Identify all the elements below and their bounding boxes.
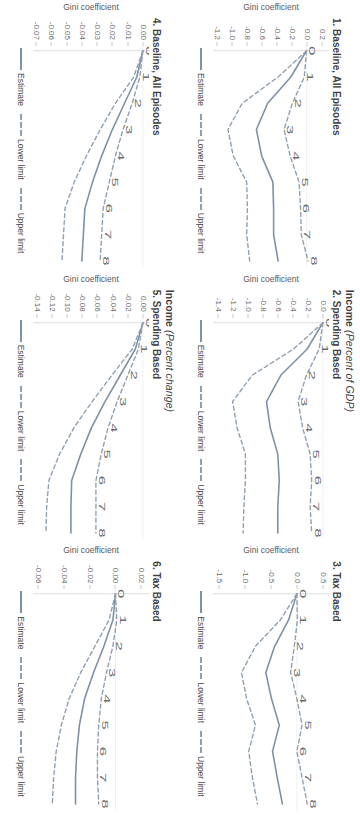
x-tick-label: 7 (98, 773, 108, 782)
legend-swatch-dash-icon (200, 459, 202, 481)
x-tick-label: 2 (129, 370, 139, 379)
x-tick-label: 3 (299, 397, 309, 406)
plot-svg-1: 012345678 (213, 44, 329, 268)
x-tick-label: 6 (298, 747, 308, 756)
x-tick-label: 7 (311, 502, 321, 511)
legend-3: Estimate Lower limit Upper limit (196, 591, 206, 813)
y-tick-label: -0.6 (273, 298, 282, 312)
legend-swatch-dash-icon (200, 731, 202, 753)
x-tick-label: 5 (102, 449, 112, 458)
legend-swatch-solid-icon (20, 48, 22, 70)
legend-item-estimate: Estimate (16, 591, 26, 649)
y-tick-label: -0.6 (257, 26, 266, 40)
plot-svg-3: 012345678 (213, 587, 329, 811)
x-tick-label: 2 (133, 99, 143, 108)
x-tick-label: 7 (302, 230, 312, 239)
x-tick-label: 0 (116, 589, 126, 598)
legend-swatch-dash-icon (200, 114, 202, 136)
x-tick-label: 8 (100, 800, 110, 809)
legend-swatch-dash-icon (20, 386, 22, 408)
panel-title-2: 2. Spending Based (330, 290, 343, 542)
y-tick-label: -0.8 (258, 298, 267, 312)
x-tick-label: 1 (118, 616, 128, 625)
legend-item-lower: Lower limit (196, 386, 206, 452)
plot-area-4: Gini coefficient 0.00-0.01-0.02-0.03-0.0… (33, 4, 149, 270)
y-tick-label: -0.5 (267, 570, 276, 584)
x-tick-label: 5 (311, 449, 321, 458)
y-tick-label: 0.5 (318, 572, 327, 583)
chart-canvas: 012345678 (33, 587, 149, 811)
y-tick-label: -1.2 (228, 298, 237, 312)
plot-area-2: Gini coefficient 0.0-0.2-0.4-0.6-0.8-1.0… (213, 276, 329, 542)
x-tick-label: 8 (101, 256, 111, 265)
x-tick-label: 1 (298, 616, 308, 625)
plot-svg-2: 012345678 (213, 316, 329, 540)
y-tick-label: -0.14 (32, 293, 41, 311)
series-line-upper-limit (46, 322, 143, 532)
x-tick-label: 2 (114, 642, 124, 651)
x-tick-label: 1 (141, 72, 149, 81)
x-tick-label: 6 (97, 475, 107, 484)
legend-swatch-solid-icon (200, 48, 202, 70)
chart-canvas: 012345678 (213, 587, 329, 811)
legend-item-lower: Lower limit (16, 386, 26, 452)
legend-item-upper: Upper limit (16, 459, 26, 525)
y-tick-label: -0.4 (288, 298, 297, 312)
y-tick-labels-6: 0.020.00-0.02-0.04-0.06 (33, 557, 149, 585)
panel-cell-2: Income (Percent of GDP) 2. Spending Base… (180, 272, 360, 544)
x-tick-label: 3 (285, 125, 295, 134)
y-tick-label: -1.2 (212, 26, 221, 40)
y-tick-label: 0.0 (302, 29, 311, 40)
legend-item-upper: Upper limit (16, 188, 26, 254)
x-tick-label: 1 (320, 344, 329, 353)
legend-item-estimate: Estimate (196, 48, 206, 106)
y-tick-label: -0.8 (242, 26, 251, 40)
y-tick-labels-5: 0.00-0.02-0.04-0.06-0.08-0.10-0.12-0.14 (33, 286, 149, 314)
legend-item-upper: Upper limit (196, 731, 206, 797)
panel-cell-1: 1. Baseline, All Episodes Gini coefficie… (180, 0, 360, 272)
panel-title-3: 3. Tax Based (330, 561, 343, 813)
x-tick-label: 2 (293, 99, 303, 108)
y-tick-label: 0.0 (318, 301, 327, 312)
y-tick-label: -1.4 (213, 298, 222, 312)
x-tick-label: 1 (305, 72, 315, 81)
panel-cell-4: 4. Baseline, All Episodes Gini coefficie… (0, 0, 180, 272)
y-tick-label: -0.01 (123, 22, 132, 40)
legend-swatch-dash-icon (20, 114, 22, 136)
plot-svg-4: 012345678 (33, 44, 149, 268)
legend-item-estimate: Estimate (196, 320, 206, 378)
x-tick-label: 5 (100, 721, 110, 730)
legend-swatch-dash-icon (200, 657, 202, 679)
y-tick-label: 0.2 (317, 29, 326, 40)
x-tick-label: 7 (103, 230, 113, 239)
x-tick-label: 3 (107, 668, 117, 677)
legend-4: Estimate Lower limit Upper limit (16, 48, 26, 270)
legend-item-estimate: Estimate (16, 48, 26, 106)
legend-6: Estimate Lower limit Upper limit (16, 591, 26, 813)
y-tick-label: -0.03 (93, 22, 102, 40)
figure-stage: 1. Baseline, All Episodes Gini coefficie… (0, 0, 360, 815)
x-tick-label: 1 (139, 344, 149, 353)
y-tick-label: 0.00 (138, 24, 147, 40)
panel-cell-3: 3. Tax Based Gini coefficient 0.50.0-0.5… (180, 543, 360, 815)
y-axis-label-5: Gini coefficient (33, 272, 149, 286)
y-tick-label: -1.5 (215, 570, 224, 584)
y-tick-label: -1.0 (227, 26, 236, 40)
y-axis-label-4: Gini coefficient (33, 0, 149, 14)
x-tick-label: 5 (300, 177, 310, 186)
y-tick-labels-1: 0.20.0-0.2-0.4-0.6-0.8-1.0-1.2 (213, 14, 329, 42)
plot-area-6: Gini coefficient 0.020.00-0.02-0.04-0.06… (33, 547, 149, 813)
legend-item-upper: Upper limit (196, 188, 206, 254)
panel-cell-5: Income (Percent change) 5. Spending Base… (0, 272, 180, 544)
y-tick-label: -0.06 (34, 565, 43, 583)
legend-item-lower: Lower limit (16, 114, 26, 180)
y-axis-label-3: Gini coefficient (213, 543, 329, 557)
y-tick-label: 0.00 (138, 296, 147, 312)
plot-area-3: Gini coefficient 0.50.0-0.5-1.0-1.5 0123… (213, 547, 329, 813)
y-tick-labels-4: 0.00-0.01-0.02-0.03-0.04-0.05-0.06-0.07 (33, 14, 149, 42)
x-tick-label: 8 (313, 528, 323, 537)
x-tick-label: 6 (98, 747, 108, 756)
x-tick-label: 0 (307, 46, 317, 55)
plot-svg-5: 012345678 (33, 316, 149, 540)
legend-swatch-dash-icon (200, 386, 202, 408)
